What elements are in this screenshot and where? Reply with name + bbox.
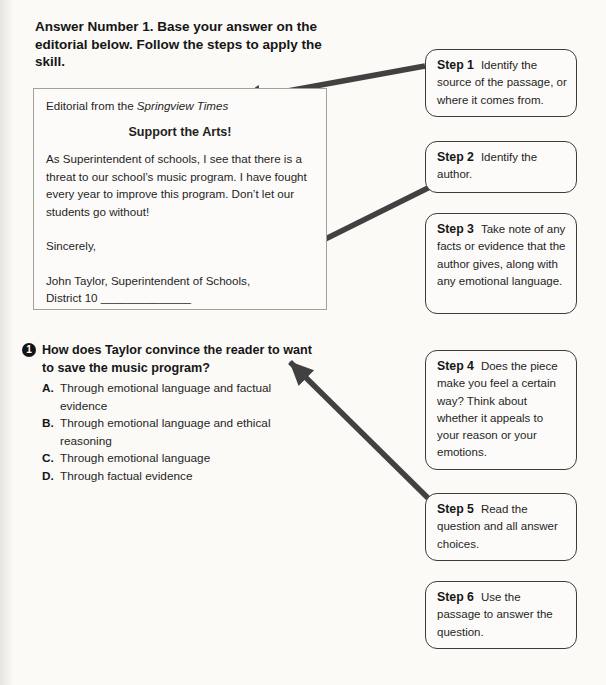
answer-choice-d: D. Through factual evidence <box>42 468 310 486</box>
step-3-label: Step 3 <box>437 222 474 236</box>
step-6-label: Step 6 <box>437 590 474 604</box>
editorial-signature: John Taylor, Superintendent of Schools,D… <box>46 272 314 307</box>
step-1-box: Step 1Identify the source of the passage… <box>425 49 577 117</box>
signature-line-2: District 10 ______________ <box>46 291 191 304</box>
step-1-label: Step 1 <box>437 58 474 72</box>
editorial-source-prefix: Editorial from the <box>46 99 137 112</box>
question-block: 1 How does Taylor convince the reader to… <box>22 341 322 485</box>
question-text: How does Taylor convince the reader to w… <box>42 341 314 377</box>
step-2-label: Step 2 <box>437 150 474 164</box>
step-3-box: Step 3Take note of any facts or evidence… <box>425 213 577 314</box>
signature-line-1: John Taylor, Superintendent of Schools, <box>46 274 250 287</box>
step-5-box: Step 5Read the question and all answer c… <box>425 493 577 561</box>
answer-choices: A. Through emotional language and factua… <box>42 380 310 485</box>
choice-c-text: Through emotional language <box>60 450 310 468</box>
step-4-box: Step 4Does the piece make you feel a cer… <box>425 350 577 470</box>
choice-a-text: Through emotional language and factual e… <box>60 380 310 415</box>
choice-b-text: Through emotional language and ethical r… <box>60 415 310 450</box>
answer-choice-b: B. Through emotional language and ethica… <box>42 415 310 450</box>
choice-b-letter: B. <box>42 415 60 433</box>
editorial-body: As Superintendent of schools, I see that… <box>46 150 314 220</box>
step-6-box: Step 6Use the passage to answer the ques… <box>425 581 577 649</box>
question-number-badge: 1 <box>22 343 36 357</box>
editorial-title: Support the Arts! <box>46 124 314 142</box>
choice-c-letter: C. <box>42 450 60 468</box>
choice-d-letter: D. <box>42 468 60 486</box>
step-4-text: Does the piece make you feel a certain w… <box>437 360 558 458</box>
answer-choice-c: C. Through emotional language <box>42 450 310 468</box>
editorial-source-name: Springview Times <box>137 99 228 112</box>
step-5-label: Step 5 <box>437 502 474 516</box>
editorial-passage-box: Editorial from the Springview Times Supp… <box>33 88 327 310</box>
editorial-source-line: Editorial from the Springview Times <box>46 97 314 115</box>
instructions-heading: Answer Number 1. Base your answer on the… <box>35 18 327 71</box>
step-4-label: Step 4 <box>437 359 474 373</box>
choice-a-letter: A. <box>42 380 60 398</box>
page-edge-shading <box>0 0 14 685</box>
answer-choice-a: A. Through emotional language and factua… <box>42 380 310 415</box>
choice-d-text: Through factual evidence <box>60 468 310 486</box>
worksheet-page: Answer Number 1. Base your answer on the… <box>0 0 606 685</box>
editorial-closing: Sincerely, <box>46 237 314 255</box>
step-2-box: Step 2Identify the author. <box>425 141 577 193</box>
